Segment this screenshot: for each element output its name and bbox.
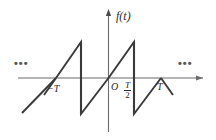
origin-label: O [111, 82, 118, 92]
function-label: f(t) [116, 10, 131, 22]
continuation-ellipsis-right: ••• [178, 58, 193, 69]
tick-label-period: T [157, 82, 163, 92]
tick-label-negative-period: −T [47, 84, 59, 94]
fraction-denominator: 2 [124, 91, 131, 101]
horizontal-axis-arrowhead [196, 75, 203, 80]
vertical-axis-arrowhead [106, 9, 111, 16]
fraction-half-period: T 2 [124, 81, 131, 101]
sawtooth-figure: f(t) O −T T 2 T ••• ••• [0, 0, 216, 140]
continuation-ellipsis-left: ••• [14, 58, 29, 69]
plot-canvas [0, 0, 216, 140]
tick-label-half-period: T 2 [124, 81, 131, 101]
